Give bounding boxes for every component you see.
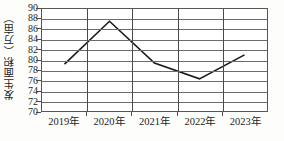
x-axis-tick-label: 2020年 (94, 117, 125, 128)
y-axis-title-label: 发生面积（万亩） (5, 12, 16, 100)
horizontal-gridline (42, 50, 267, 51)
y-axis-tick-mark (36, 39, 41, 40)
x-axis-tick-label: 2022年 (184, 117, 215, 128)
horizontal-gridline (42, 92, 267, 93)
vertical-gridline (87, 9, 88, 111)
y-axis-tick-mark (36, 60, 41, 61)
y-axis-tick-mark (36, 91, 41, 92)
horizontal-gridline (42, 71, 267, 72)
horizontal-gridline (42, 81, 267, 82)
y-axis-tick-mark (36, 18, 41, 19)
y-axis-tick-labels: 9088868482807876747270 (18, 8, 38, 112)
x-axis-tick-label: 2019年 (48, 117, 79, 128)
vertical-gridline (223, 9, 224, 111)
horizontal-gridline (42, 61, 267, 62)
x-axis-tick-mark (222, 112, 223, 116)
y-axis-tick-mark (36, 101, 41, 102)
x-axis-tick-mark (131, 112, 132, 116)
x-axis-tick-label: 2023年 (230, 117, 261, 128)
vertical-gridline (178, 9, 179, 111)
y-axis-title: 发生面积（万亩） (0, 0, 20, 112)
y-axis-tick-mark (36, 80, 41, 81)
y-axis-tick-mark (36, 49, 41, 50)
x-axis-tick-mark (86, 112, 87, 116)
y-axis-tick-mark (36, 28, 41, 29)
y-axis-tick-mark (36, 70, 41, 71)
y-axis-tick-mark (36, 112, 41, 113)
horizontal-gridline (42, 102, 267, 103)
plot-area (41, 8, 268, 112)
vertical-gridline (132, 9, 133, 111)
horizontal-gridline (42, 40, 267, 41)
horizontal-gridline (42, 19, 267, 20)
x-axis-tick-mark (177, 112, 178, 116)
x-axis-tick-label: 2021年 (139, 117, 170, 128)
y-axis-tick-mark (36, 8, 41, 9)
x-axis-tick-labels: 2019年2020年2021年2022年2023年 (41, 117, 268, 135)
horizontal-gridline (42, 29, 267, 30)
line-chart: 发生面积（万亩） 9088868482807876747270 2019年202… (0, 0, 284, 141)
